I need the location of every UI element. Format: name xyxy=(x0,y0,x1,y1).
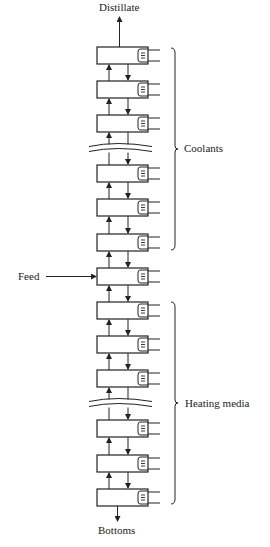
break-wave xyxy=(89,149,152,152)
stage-box xyxy=(97,199,148,216)
stage-box xyxy=(97,302,148,319)
break-wave xyxy=(89,144,152,147)
stage-box xyxy=(97,47,148,64)
stage-box xyxy=(97,489,148,506)
column-diagram xyxy=(0,0,270,547)
stage-box xyxy=(97,455,148,472)
feed-label: Feed xyxy=(18,270,39,282)
coolants-label: Coolants xyxy=(184,142,223,154)
break-wave xyxy=(89,399,152,402)
stage-box xyxy=(97,336,148,353)
coolants-brace xyxy=(171,48,178,250)
stage-box xyxy=(97,370,148,387)
stage-box xyxy=(97,115,148,132)
stage-box xyxy=(97,234,148,251)
stage-box xyxy=(97,165,148,182)
heating-media-label: Heating media xyxy=(185,397,249,409)
heating-media-brace xyxy=(171,302,178,504)
break-wave xyxy=(89,404,152,407)
distillate-label: Distillate xyxy=(99,1,139,13)
bottoms-label: Bottoms xyxy=(98,524,135,536)
stage-box xyxy=(97,81,148,98)
stage-box xyxy=(97,420,148,437)
stage-box xyxy=(97,268,148,285)
